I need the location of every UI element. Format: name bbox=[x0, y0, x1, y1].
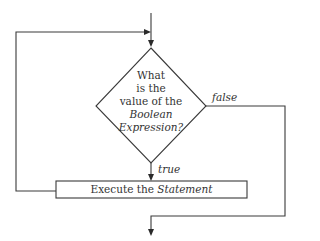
process-text-prefix: Execute the bbox=[90, 183, 157, 195]
process-text-emphasis: Statement bbox=[157, 183, 212, 195]
process-text: Execute the Statement bbox=[56, 181, 247, 198]
decision-line-5: Expression? bbox=[106, 121, 196, 134]
decision-text: What is the value of the Boolean Express… bbox=[106, 69, 196, 134]
loop-back-arrow-icon bbox=[144, 29, 151, 35]
decision-line-3: value of the bbox=[106, 95, 196, 108]
true-arrow-icon bbox=[148, 174, 154, 181]
false-label: false bbox=[212, 91, 237, 103]
decision-line-2: is the bbox=[106, 82, 196, 95]
entry-arrow-icon bbox=[148, 40, 154, 47]
true-label: true bbox=[158, 163, 180, 175]
decision-line-4: Boolean bbox=[106, 108, 196, 121]
exit-arrow-icon bbox=[148, 229, 154, 236]
decision-line-1: What bbox=[106, 69, 196, 82]
